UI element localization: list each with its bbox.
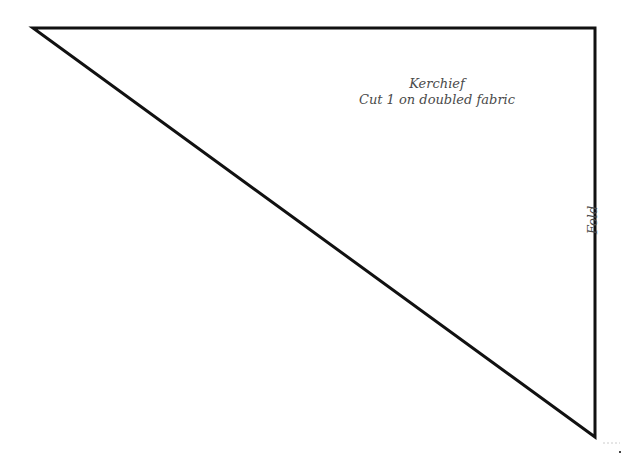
pattern-cut-instruction: Cut 1 on doubled fabric (347, 92, 527, 108)
kerchief-pattern-outline (0, 0, 623, 459)
pattern-piece-name: Kerchief (347, 76, 527, 92)
pattern-canvas: Kerchief Cut 1 on doubled fabric Fold (0, 0, 623, 459)
pattern-piece-label: Kerchief Cut 1 on doubled fabric (347, 76, 527, 108)
fold-label: Fold (585, 200, 601, 240)
page-mark (619, 451, 621, 453)
